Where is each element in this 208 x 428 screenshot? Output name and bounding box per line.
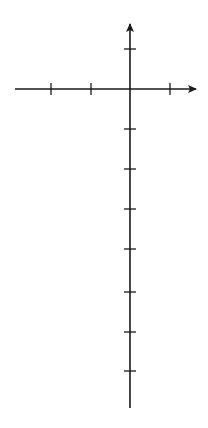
graph [0, 0, 208, 428]
